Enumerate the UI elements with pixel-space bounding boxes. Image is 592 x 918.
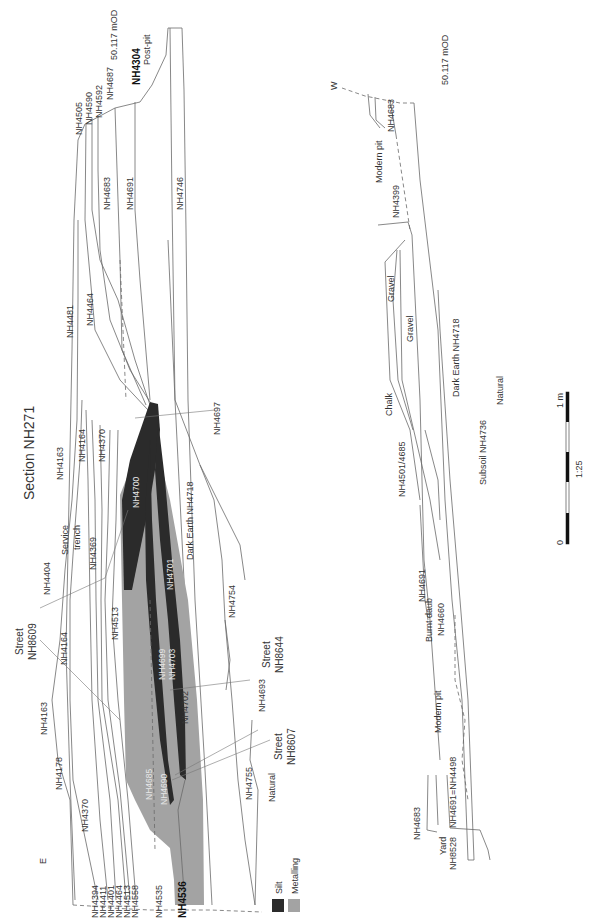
label-nh4660: NH4660 (436, 603, 446, 636)
scale-one-meter: 1 m (555, 393, 565, 408)
legend-silt-label: Silt (274, 881, 284, 894)
label-nh4558: NH4558 (130, 885, 140, 918)
label-nh4501-4685: NH4501/4685 (397, 441, 407, 497)
label-nh4691-w: NH4691 (417, 569, 427, 602)
label-natural-2: Natural (495, 376, 505, 405)
label-nh4481: NH4481 (65, 305, 75, 338)
label-nh4683: NH4683 (102, 177, 112, 210)
label-nh4687: NH4687 (105, 67, 115, 100)
label-nh4404: NH4404 (42, 562, 52, 595)
label-nh4163: NH4163 (55, 447, 65, 480)
label-nh4164: NH4164 (77, 429, 87, 462)
legend: Silt Metalling (272, 858, 300, 912)
label-street: Street (14, 628, 25, 655)
stratum-line (115, 108, 146, 405)
stratum-line (427, 775, 437, 832)
stratum-line (368, 94, 380, 128)
label-nh4755: NH4755 (244, 767, 254, 800)
label-street-3: Street (273, 733, 284, 760)
section-drawing: 50.117 mOD NH4505 NH4590 NH4592 NH4687 N… (0, 0, 592, 918)
label-nh4699: NH4699 (157, 649, 167, 680)
stratum-line (85, 124, 148, 410)
legend-metalling-swatch (288, 899, 300, 912)
label-nh4683-w: NH4683 (386, 99, 396, 132)
label-nh4683-yard: NH4683 (412, 807, 422, 840)
second-top-dashed (342, 88, 414, 103)
label-natural: Natural (267, 773, 277, 802)
label-nh4703: NH4703 (167, 649, 177, 680)
stratum-line (135, 102, 150, 400)
label-nh4685: NH4685 (144, 769, 154, 800)
label-nh4536: NH4536 (177, 881, 188, 918)
label-nh4164-lower: NH4164 (59, 632, 69, 665)
label-nh4505: NH4505 (74, 102, 84, 135)
label-nh4592: NH4592 (94, 85, 104, 118)
label-street-2: Street (261, 641, 272, 668)
dashed-stratum (120, 260, 126, 400)
label-nh4464: NH4464 (85, 293, 95, 326)
label-nh4590: NH4590 (84, 92, 94, 125)
main-section (40, 28, 270, 912)
east-marker: E (38, 858, 48, 864)
label-nh4697: NH4697 (212, 402, 222, 435)
scale-zero: 0 (555, 540, 565, 545)
stratum-line (92, 420, 116, 900)
label-nh8609: NH8609 (27, 623, 38, 660)
second-section-labels: W 50.117 mOD NH4683 Modern pit NH4399 Gr… (329, 34, 505, 870)
label-nh4754: NH4754 (227, 585, 237, 618)
label-nh8607: NH8607 (286, 728, 297, 765)
label-nh4702: NH4702 (180, 691, 190, 724)
label-nh4690: NH4690 (159, 774, 169, 805)
stratum-line (425, 430, 440, 520)
second-natural-boundary (414, 103, 474, 860)
label-service-trench: Service (60, 525, 70, 555)
label-nh4369: NH4369 (88, 537, 98, 570)
label-nh4304: NH4304 (131, 48, 142, 85)
scale-ratio: 1:25 (574, 460, 584, 478)
scale-bar-segment (566, 392, 569, 422)
label-nh4701: NH4701 (165, 559, 175, 590)
label-dark-earth: Dark Earth NH4718 (185, 481, 195, 560)
stratum-line (92, 118, 150, 405)
datum-label: 50.117 mOD (109, 9, 119, 60)
label-gravel-2: Gravel (405, 315, 415, 342)
label-nh4163-lower: NH4163 (39, 702, 49, 735)
scale-bar-segment (566, 513, 569, 544)
legend-metalling-label: Metalling (290, 858, 300, 894)
west-marker: W (329, 81, 339, 90)
label-nh4370: NH4370 (97, 429, 107, 462)
scale-bar: 1 m 0 1:25 (555, 392, 584, 545)
label-service-trench-2: trench (72, 525, 82, 550)
label-nh4513: NH4513 (110, 607, 120, 640)
section-title: Section NH271 (21, 406, 37, 500)
leader-line (40, 640, 120, 720)
label-modern-pit-2: Modern pit (433, 690, 443, 733)
label-chalk: Chalk (384, 392, 394, 416)
scale-bar-segment (566, 452, 569, 482)
label-nh4700: NH4700 (131, 477, 141, 508)
label-nh8528: NH8528 (448, 837, 458, 870)
label-nh4693: NH4693 (257, 679, 267, 712)
legend-silt-swatch (272, 899, 284, 912)
label-nh4399: NH4399 (391, 185, 401, 218)
label-nh8644: NH8644 (274, 636, 285, 673)
label-yard: Yard (438, 837, 448, 855)
second-section (342, 88, 490, 860)
datum-label-2: 50.117 mOD (440, 34, 450, 85)
label-modern-pit: Modern pit (374, 140, 384, 183)
label-nh4691-eq: NH4691=NH4498 (448, 757, 458, 828)
stratum-line (436, 775, 438, 825)
label-post-pit: Post-pit (142, 34, 152, 65)
label-nh4535: NH4535 (154, 885, 164, 918)
label-subsoil: Subsoil NH4736 (478, 420, 488, 485)
label-gravel: Gravel (386, 275, 396, 302)
label-nh4370-lower: NH4370 (80, 799, 90, 832)
label-nh4746: NH4746 (175, 177, 185, 210)
label-burnt-daub: Burnt daub (424, 598, 434, 642)
label-nh4691: NH4691 (125, 177, 135, 210)
label-dark-earth-2: Dark Earth NH4718 (451, 318, 461, 397)
label-nh4178: NH4178 (54, 757, 64, 790)
